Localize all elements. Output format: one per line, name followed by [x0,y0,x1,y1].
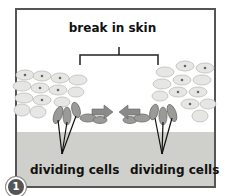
pointer-lines [58,116,172,154]
break-in-skin-label: break in skin [0,21,225,35]
step-number-badge: 1 [6,177,26,196]
break-bracket [80,47,158,65]
right-dividing-cells-label: dividing cells [130,163,219,177]
dividing-cells [51,101,179,125]
left-dividing-cells-label: dividing cells [30,163,119,177]
